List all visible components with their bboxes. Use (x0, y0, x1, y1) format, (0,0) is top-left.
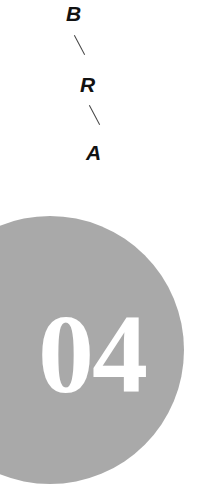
section-number: 04 (38, 298, 146, 410)
letter-b: B (66, 3, 81, 24)
slash-divider (89, 105, 100, 125)
letter-a: A (86, 142, 101, 163)
slash-divider (74, 35, 85, 55)
letter-r: R (80, 74, 95, 95)
